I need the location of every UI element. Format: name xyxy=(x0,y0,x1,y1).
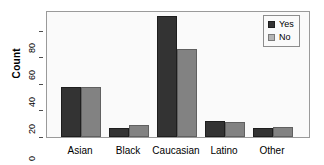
x-tick-label-asian: Asian xyxy=(67,145,92,156)
y-tick-label-40: 40 xyxy=(28,97,37,107)
x-axis: Asian Black Caucasian Latino Other xyxy=(46,139,310,165)
bar-other-no xyxy=(273,127,293,137)
y-tick-label-80: 80 xyxy=(28,43,37,53)
bar-caucasian-no xyxy=(177,49,197,137)
bar-asian-yes xyxy=(61,87,81,137)
x-tick-label-caucasian: Caucasian xyxy=(152,145,199,156)
bar-caucasian-yes xyxy=(157,16,177,137)
y-tick-label-20: 20 xyxy=(28,124,37,134)
bar-other-yes xyxy=(253,128,273,137)
y-tick-label-0: 0 xyxy=(28,156,37,161)
y-tick-mark-60 xyxy=(39,57,43,58)
bar-black-no xyxy=(129,125,149,137)
bar-latino-no xyxy=(225,122,245,137)
legend-label-yes: Yes xyxy=(279,20,294,29)
x-tick-label-other: Other xyxy=(259,145,284,156)
y-tick-mark-80 xyxy=(39,31,43,32)
y-tick-mark-40 xyxy=(39,84,43,85)
bar-asian-no xyxy=(81,87,101,137)
y-axis-title: Count xyxy=(11,48,22,78)
y-axis: Count 0 20 40 60 80 xyxy=(0,0,46,165)
y-tick-mark-20 xyxy=(39,110,43,111)
legend: Yes No xyxy=(263,15,300,47)
bar-latino-yes xyxy=(205,121,225,137)
dark-swatch-icon xyxy=(268,21,275,28)
legend-item-yes: Yes xyxy=(268,19,294,30)
bar-chart-figure: Count 0 20 40 60 80 xyxy=(0,0,324,165)
plot-area: Yes No xyxy=(46,11,310,138)
legend-item-no: No xyxy=(268,32,294,43)
legend-label-no: No xyxy=(279,33,291,42)
y-tick-label-60: 60 xyxy=(28,70,37,80)
y-tick-mark-0 xyxy=(39,137,43,138)
gray-swatch-icon xyxy=(268,34,275,41)
bar-black-yes xyxy=(109,128,129,137)
x-tick-label-latino: Latino xyxy=(210,145,237,156)
x-tick-label-black: Black xyxy=(116,145,140,156)
